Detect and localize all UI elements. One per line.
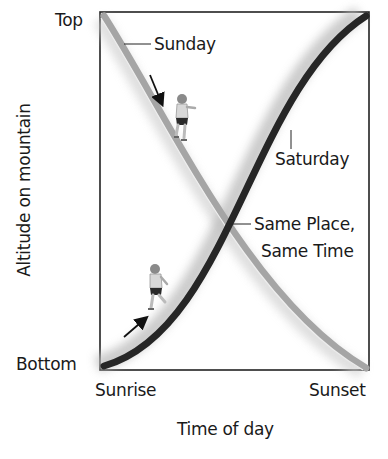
x-axis-label: Time of day: [177, 419, 274, 439]
saturday-label: Saturday: [275, 149, 349, 169]
sunday-label: Sunday: [154, 34, 216, 54]
y-axis-top-label: Top: [55, 10, 83, 30]
x-axis-start-label: Sunrise: [95, 380, 156, 400]
intersection-label-line1: Same Place,: [254, 214, 355, 234]
y-axis-label: Altitude on mountain: [14, 103, 34, 277]
intersection-label-line2: Same Time: [261, 241, 354, 261]
x-axis-end-label: Sunset: [309, 380, 366, 400]
hiker-ascending-icon: [148, 264, 167, 309]
hiker-descending-icon: [174, 94, 195, 140]
y-axis-bottom-label: Bottom: [16, 354, 77, 374]
